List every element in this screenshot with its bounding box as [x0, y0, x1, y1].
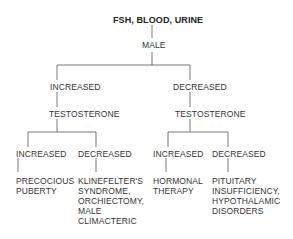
gender-node: MALE [142, 40, 166, 50]
root-node: FSH, BLOOD, URINE [113, 15, 203, 25]
test-right: TESTOSTERONE [175, 109, 245, 119]
test-left: TESTOSTERONE [49, 109, 119, 119]
right-increased: INCREASED [153, 149, 204, 159]
right-decreased: DECREASED [212, 149, 266, 159]
left-decreased: DECREASED [78, 149, 132, 159]
branch-increased: INCREASED [50, 82, 101, 92]
outcome-pituitary: PITUITARY INSUFFICIENCY, HYPOTHALAMIC DI… [212, 176, 280, 216]
outcome-precocious-puberty: PRECOCIOUS PUBERTY [16, 176, 74, 196]
outcome-klinefelter: KLINEFELTER'S SYNDROME, ORCHIECTOMY, MAL… [78, 176, 144, 226]
outcome-hormonal-therapy: HORMONAL THERAPY [153, 176, 203, 196]
branch-decreased: DECREASED [173, 82, 227, 92]
left-increased: INCREASED [16, 149, 67, 159]
